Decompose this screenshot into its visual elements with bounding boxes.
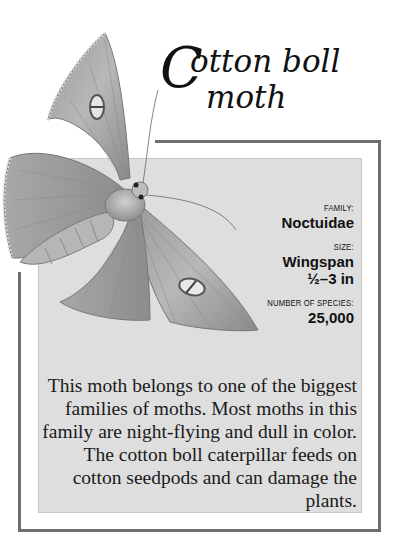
fact-label: SIZE: (268, 242, 354, 253)
description-text: This moth belongs to one of the biggest … (42, 374, 357, 512)
fact-label: FAMILY: (268, 203, 354, 214)
fact-size: SIZE: Wingspan ½–3 in (252, 242, 354, 287)
fact-label: NUMBER OF SPECIES: (268, 298, 354, 309)
title-line-1: otton boll (190, 44, 340, 78)
fact-species-count: NUMBER OF SPECIES: 25,000 (252, 298, 354, 326)
fact-value-secondary: ½–3 in (252, 270, 354, 287)
frame-bottom-border (18, 529, 381, 532)
fact-value: Noctuidae (252, 214, 354, 231)
fact-family: FAMILY: Noctuidae (252, 203, 354, 231)
frame-right-border (378, 140, 381, 532)
title-line-2: moth (206, 80, 286, 114)
fact-value: Wingspan (252, 253, 354, 270)
fact-value: 25,000 (252, 309, 354, 326)
fact-list: FAMILY: Noctuidae SIZE: Wingspan ½–3 in … (252, 203, 354, 337)
